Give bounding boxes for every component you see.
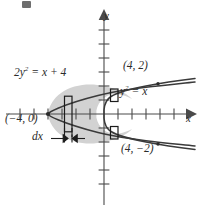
corner-artifact-mark [22,1,31,8]
figure-canvas [0,0,200,216]
label-point-4-neg2: (4, −2) [121,143,154,155]
label-outer-curve-equation: 2y2 = x + 4 [14,67,66,79]
point-marker-bottom [156,142,159,145]
label-dx: dx [32,131,43,143]
point-marker-top [156,82,159,85]
label-point-neg4-0: (−4, 0) [5,113,38,125]
label-point-4-2: (4, 2) [123,60,148,72]
label-inner-curve-equation: y2 = x [120,86,147,98]
label-y-axis: y [104,10,109,21]
label-x-axis: x [186,113,191,124]
point-marker-vertex [46,112,50,116]
